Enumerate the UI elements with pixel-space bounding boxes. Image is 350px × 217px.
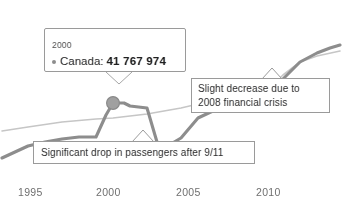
series-color-dot — [52, 60, 56, 64]
tooltip-pointer — [106, 72, 132, 84]
annotation-crisis-line-2: 2008 financial crisis — [198, 96, 329, 110]
tooltip-series-label: Canada: — [60, 55, 103, 68]
x-tick-2010: 2010 — [256, 186, 281, 198]
tooltip-series-row: Canada: 41 767 974 — [52, 55, 185, 68]
canada-2000-marker[interactable] — [107, 97, 120, 110]
x-tick-1995: 1995 — [18, 186, 43, 198]
x-tick-2000: 2000 — [96, 186, 121, 198]
tooltip-value: 41 767 974 — [106, 55, 166, 68]
tooltip-year: 2000 — [52, 40, 72, 50]
data-point-tooltip[interactable]: 2000 Canada: 41 767 974 — [44, 28, 186, 72]
annotation-crisis-line-1: Slight decrease due to — [198, 82, 329, 96]
annotation-911-line-1: Significant drop in passengers after 9/1… — [41, 145, 254, 161]
annotation-2008-crisis[interactable]: Slight decrease due to 2008 financial cr… — [191, 78, 330, 113]
x-tick-2005: 2005 — [176, 186, 201, 198]
annotation-nine-eleven[interactable]: Significant drop in passengers after 9/1… — [33, 141, 255, 164]
line-chart: 2000 Canada: 41 767 974 Slight decrease … — [0, 0, 350, 217]
